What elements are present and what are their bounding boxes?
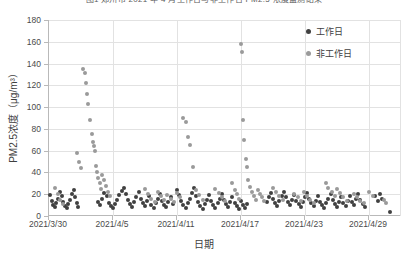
y-tick-mark (44, 64, 48, 65)
data-point-workday (72, 188, 76, 192)
x-tick-label: 2021/4/29 (349, 219, 387, 229)
y-tick-label: 60 (32, 146, 41, 156)
y-gridline (49, 107, 401, 108)
y-tick-mark (44, 194, 48, 195)
data-point-nonworkday (246, 178, 250, 182)
data-point-workday (203, 202, 207, 206)
y-tick-mark (44, 151, 48, 152)
x-tick-mark (176, 216, 177, 220)
data-point-workday (143, 204, 147, 208)
data-point-workday (275, 204, 279, 208)
y-tick-label: 140 (27, 59, 41, 69)
data-point-nonworkday (326, 186, 330, 190)
data-point-workday (228, 200, 232, 204)
pm25-scatter-chart: 图1 郑州市 2021 年 4 月工作日与非工作日 PM2.5 浓度监测结果 0… (0, 0, 408, 257)
x-axis-tick-labels: 2021/3/302021/4/52021/4/112021/4/172021/… (0, 219, 408, 233)
data-point-nonworkday (188, 143, 192, 147)
data-point-nonworkday (281, 198, 285, 202)
data-point-workday (113, 202, 117, 206)
data-point-workday (134, 195, 138, 199)
data-point-nonworkday (254, 198, 258, 202)
data-point-nonworkday (333, 194, 337, 198)
data-point-nonworkday (53, 186, 57, 190)
y-tick-mark (44, 20, 48, 21)
y-tick-label: 180 (27, 15, 41, 25)
data-point-workday (152, 206, 156, 210)
data-point-nonworkday (245, 165, 249, 169)
y-tick-label: 80 (32, 124, 41, 134)
data-point-nonworkday (58, 198, 62, 202)
x-tick-label: 2021/4/23 (285, 219, 323, 229)
data-point-workday (68, 198, 72, 202)
data-point-nonworkday (56, 192, 60, 196)
data-point-nonworkday (83, 71, 87, 75)
data-point-workday (137, 190, 141, 194)
y-gridline (49, 129, 401, 130)
data-point-nonworkday (240, 50, 244, 54)
data-point-nonworkday (362, 201, 366, 205)
data-point-workday (344, 204, 348, 208)
data-point-workday (76, 205, 80, 209)
data-point-workday (348, 194, 352, 198)
data-point-nonworkday (94, 164, 98, 168)
data-point-nonworkday (244, 157, 248, 161)
data-point-workday (271, 197, 275, 201)
data-point-nonworkday (239, 42, 243, 46)
legend-item-workday[interactable]: 工作日 (306, 20, 392, 42)
data-point-workday (139, 197, 143, 201)
chart-legend: 工作日非工作日 (306, 20, 392, 64)
x-gridline (177, 20, 178, 216)
data-point-workday (378, 192, 382, 196)
x-tick-label: 2021/3/30 (29, 219, 67, 229)
data-point-workday (243, 206, 247, 210)
data-point-nonworkday (90, 132, 94, 136)
data-point-workday (188, 197, 192, 201)
data-point-workday (65, 206, 69, 210)
data-point-workday (66, 202, 70, 206)
legend-label: 非工作日 (316, 47, 352, 60)
data-point-workday (316, 194, 320, 198)
data-point-nonworkday (100, 173, 104, 177)
data-point-workday (73, 195, 77, 199)
data-point-workday (111, 206, 115, 210)
y-tick-label: 120 (27, 80, 41, 90)
data-point-workday (213, 206, 217, 210)
data-point-workday (164, 205, 168, 209)
data-point-nonworkday (95, 170, 99, 174)
data-point-nonworkday (271, 186, 275, 190)
data-point-workday (376, 199, 380, 203)
data-point-workday (326, 197, 330, 201)
data-point-workday (117, 193, 121, 197)
legend-item-nonworkday[interactable]: 非工作日 (306, 42, 392, 64)
data-point-nonworkday (367, 190, 371, 194)
y-axis-title: PM2.5浓度（μg/m³） (5, 46, 20, 186)
data-point-nonworkday (201, 198, 205, 202)
data-point-workday (299, 205, 303, 209)
data-point-nonworkday (79, 166, 83, 170)
data-point-nonworkday (162, 198, 166, 202)
data-point-workday (122, 186, 126, 190)
data-point-nonworkday (235, 192, 239, 196)
data-point-workday (201, 207, 205, 211)
data-point-nonworkday (98, 181, 102, 185)
data-point-workday (100, 197, 104, 201)
y-gridline (49, 151, 401, 152)
y-tick-label: 20 (32, 189, 41, 199)
legend-label: 工作日 (316, 25, 343, 38)
data-point-nonworkday (248, 185, 252, 189)
data-point-workday (124, 192, 128, 196)
data-point-nonworkday (324, 181, 328, 185)
data-point-workday (186, 201, 190, 205)
data-point-nonworkday (384, 201, 388, 205)
x-tick-mark (368, 216, 369, 220)
data-point-nonworkday (96, 176, 100, 180)
data-point-workday (322, 206, 326, 210)
x-tick-label: 2021/4/11 (157, 219, 194, 229)
data-point-nonworkday (153, 200, 157, 204)
x-gridline (113, 20, 114, 216)
data-point-nonworkday (184, 120, 188, 124)
y-tick-mark (44, 172, 48, 173)
chart-title: 图1 郑州市 2021 年 4 月工作日与非工作日 PM2.5 浓度监测结果 (0, 0, 408, 4)
data-point-nonworkday (223, 199, 227, 203)
data-point-nonworkday (186, 135, 190, 139)
